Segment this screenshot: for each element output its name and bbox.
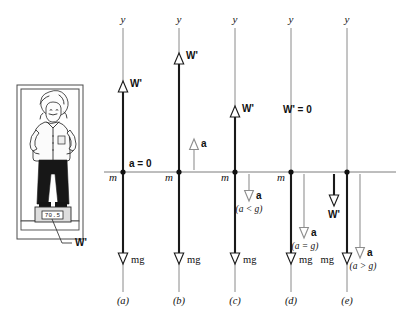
shirt-button <box>52 149 53 150</box>
panel-d-mass-label: m <box>277 171 285 183</box>
panel-e-gravity-label: mg <box>321 254 335 265</box>
panel-a-mass-label: m <box>109 171 117 183</box>
panel-a-gravity-arrowhead <box>118 253 127 264</box>
panel-e-accel-arrowhead <box>356 248 365 259</box>
panel-c: y W' mg a (a < g) m (c) <box>221 13 262 307</box>
panel-d-mass-point <box>288 169 293 174</box>
panel-b-weight-label: W' <box>186 50 198 61</box>
left-shoe <box>39 202 51 207</box>
panel-d-axis-label: y <box>288 13 294 25</box>
panel-a-axis-label: y <box>120 13 126 25</box>
panel-c-axis-label: y <box>232 13 238 25</box>
panel-c-weight-arrowhead <box>230 106 239 117</box>
scale-reading: 70.5 <box>45 212 61 219</box>
panel-c-gravity-label: mg <box>243 254 257 265</box>
panel-d: y W' = 0 mg a (a = g) m (d) <box>277 13 318 307</box>
panel-e-mass-point <box>344 169 349 174</box>
right-shoe <box>55 202 67 207</box>
panel-b-mass-label: m <box>165 171 173 183</box>
panel-c-accel-arrowhead <box>245 191 254 202</box>
shirt-pocket <box>58 136 65 144</box>
panel-d-gravity-arrowhead <box>286 253 295 264</box>
elevator-illustration: 70.5 W' <box>17 85 87 248</box>
panel-d-accel-label: a <box>311 227 317 238</box>
panel-a-caption: (a) <box>117 295 130 307</box>
shirt-button <box>52 142 53 143</box>
panel-e-weight-arrowhead <box>329 195 338 206</box>
shirt-button <box>52 135 53 136</box>
panel-e-accel-label: a <box>367 247 373 258</box>
face-shape <box>46 102 61 122</box>
panel-c-mass-label: m <box>221 171 229 183</box>
panel-c-caption: (c) <box>229 295 241 307</box>
panel-a-gravity-label: mg <box>131 254 145 265</box>
callout-label-weight: W' <box>75 237 87 248</box>
panel-d-accel-condition: (a = g) <box>292 241 319 252</box>
panel-a-weight-arrowhead <box>118 81 127 92</box>
diagram-canvas: 70.5 W' y W' mg m a = 0 (a) <box>0 0 400 328</box>
panel-a: y W' mg m a = 0 (a) <box>109 13 152 307</box>
panel-d-gravity-label: mg <box>299 254 313 265</box>
panel-b-gravity-arrowhead <box>174 253 183 264</box>
panel-d-caption: (d) <box>285 295 298 307</box>
panel-b-gravity-label: mg <box>187 254 201 265</box>
panel-e-weight-label: W' <box>328 209 340 220</box>
panel-c-accel-condition: (a < g) <box>236 204 263 215</box>
panel-b-accel-arrowhead <box>190 139 199 150</box>
panel-b-caption: (b) <box>173 295 186 307</box>
panel-a-accel-label: a = 0 <box>129 158 152 169</box>
panel-e-caption: (e) <box>341 295 353 307</box>
panel-c-mass-point <box>232 169 237 174</box>
panel-a-weight-label: W' <box>130 78 142 89</box>
panel-c-accel-label: a <box>256 190 262 201</box>
panel-d-weight-zero-label: W' = 0 <box>283 104 312 115</box>
panel-d-accel-arrowhead <box>300 228 309 239</box>
panel-e-accel-condition: (a > g) <box>350 261 377 272</box>
panel-c-gravity-arrowhead <box>230 253 239 264</box>
panel-e-axis-label: y <box>344 13 350 25</box>
panel-b-weight-arrowhead <box>174 53 183 64</box>
panel-b-accel-label: a <box>201 138 207 149</box>
physics-figure: 70.5 W' y W' mg m a = 0 (a) <box>0 0 400 328</box>
panel-a-mass-point <box>120 169 125 174</box>
panel-b-axis-label: y <box>176 13 182 25</box>
panel-c-weight-label: W' <box>242 103 254 114</box>
panel-b-mass-point <box>176 169 181 174</box>
panel-e: y W' mg a (a > g) (e) <box>321 13 377 307</box>
panel-b: y W' mg a m (b) <box>165 13 207 307</box>
bathroom-scale: 70.5 <box>35 207 71 222</box>
